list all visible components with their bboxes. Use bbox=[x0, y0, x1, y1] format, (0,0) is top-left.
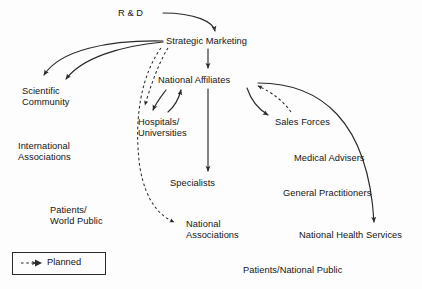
node-strategic-marketing: Strategic Marketing bbox=[166, 36, 247, 47]
edge-hospitals-universities-to-national-affiliates bbox=[168, 90, 181, 112]
node-national-health-services: National Health Services bbox=[299, 230, 402, 241]
node-international-associations: International Associations bbox=[18, 141, 71, 164]
node-general-practitioners: General Practitioners bbox=[283, 188, 371, 199]
node-national-associations: National Associations bbox=[186, 219, 239, 242]
edge-sales-forces-to-national-affiliates bbox=[258, 86, 291, 112]
edge-national-affiliates-to-sales-forces bbox=[247, 88, 268, 115]
node-sales-forces: Sales Forces bbox=[275, 117, 330, 128]
node-national-affiliates: National Affiliates bbox=[158, 75, 230, 86]
node-patients-national-public: Patients/National Public bbox=[243, 265, 342, 276]
node-scientific-community: Scientific Community bbox=[22, 86, 69, 109]
edge-national-affiliates-to-hospitals-universities bbox=[153, 90, 166, 110]
edge-rd-to-strategic-marketing bbox=[163, 13, 215, 31]
legend-label: Planned bbox=[47, 257, 81, 268]
node-rd: R & D bbox=[118, 8, 143, 19]
legend-dashed-arrow-icon bbox=[20, 257, 44, 269]
flow-diagram: R & D Strategic Marketing Scientific Com… bbox=[0, 0, 422, 289]
node-medical-advisers: Medical Advisers bbox=[294, 153, 365, 164]
node-hospitals-universities: Hospitals/ Universities bbox=[138, 117, 187, 140]
edge-strategic-marketing-to-scientific-community-2 bbox=[66, 42, 163, 79]
node-specialists: Specialists bbox=[170, 178, 215, 189]
edge-strategic-marketing-to-scientific-community-1 bbox=[44, 41, 163, 75]
node-patients-world-public: Patients/ World Public bbox=[50, 205, 103, 228]
